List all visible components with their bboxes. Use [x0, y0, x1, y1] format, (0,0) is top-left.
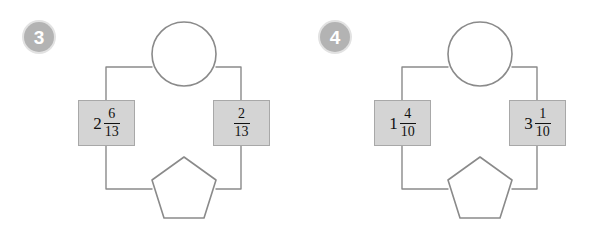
whole-number-right: 3	[524, 115, 535, 132]
mixed-number-left: 2 6 13	[93, 107, 120, 139]
connector-circle-to-left-box	[402, 67, 448, 100]
fraction-left: 6 13	[104, 107, 120, 139]
connector-left-box-to-pentagon	[402, 146, 448, 189]
fraction-left: 4 10	[400, 107, 416, 139]
connector-right-box-to-pentagon	[216, 146, 241, 189]
numerator-left: 6	[107, 107, 116, 122]
fraction-box-right[interactable]: 3 1 10	[509, 100, 566, 146]
circle-shape	[152, 22, 216, 86]
whole-number-left: 2	[93, 115, 104, 132]
problem-panel-4: 4 1 4 10 3	[296, 0, 596, 238]
fraction-right: 1 10	[535, 107, 551, 139]
whole-number-left: 1	[389, 115, 400, 132]
numerator-right: 2	[237, 107, 246, 122]
denominator-right: 13	[234, 124, 250, 139]
fraction-box-right[interactable]: 2 13	[213, 100, 270, 146]
problem-panel-3: 3 2 6 13	[0, 0, 300, 238]
connector-circle-to-right-box	[216, 67, 241, 100]
denominator-left: 13	[104, 124, 120, 139]
connector-right-box-to-pentagon	[512, 146, 537, 189]
mixed-number-right: 3 1 10	[524, 107, 551, 139]
circle-shape	[448, 22, 512, 86]
fraction-box-left[interactable]: 1 4 10	[374, 100, 431, 146]
connector-left-box-to-pentagon	[106, 146, 152, 189]
mixed-number-left: 1 4 10	[389, 107, 416, 139]
fraction-box-left[interactable]: 2 6 13	[78, 100, 135, 146]
numerator-left: 4	[403, 107, 412, 122]
pentagon-shape	[448, 157, 512, 218]
denominator-left: 10	[400, 124, 416, 139]
pentagon-shape	[152, 157, 216, 218]
connector-circle-to-right-box	[512, 67, 537, 100]
numerator-right: 1	[538, 107, 547, 122]
fraction-right: 2 13	[234, 107, 250, 139]
mixed-number-right: 2 13	[234, 107, 250, 139]
denominator-right: 10	[535, 124, 551, 139]
connector-circle-to-left-box	[106, 67, 152, 100]
worksheet-canvas: 3 2 6 13	[0, 0, 601, 238]
